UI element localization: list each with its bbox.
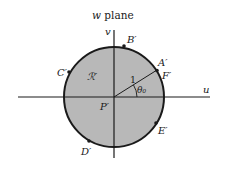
point-b-label: B′ <box>126 34 137 45</box>
v-axis-label: v <box>105 26 111 37</box>
plane-title-suffix: plane <box>101 9 134 21</box>
w-plane-diagram: w plane v u B′ A′ F′ C′ ℛ′ 1 θ₀ P′ E′ D′ <box>0 0 225 173</box>
angle-label: θ₀ <box>137 85 146 95</box>
point-a-label: A′ <box>157 57 168 68</box>
point-a-f <box>155 69 159 73</box>
region-label: ℛ′ <box>87 71 98 82</box>
point-b <box>122 44 126 48</box>
radius-label: 1 <box>130 74 136 85</box>
point-e-label: E′ <box>157 125 168 136</box>
point-c <box>67 70 71 74</box>
point-d-label: D′ <box>80 146 92 157</box>
point-d <box>87 139 91 143</box>
point-c-label: C′ <box>57 67 68 78</box>
point-f-label: F′ <box>161 70 172 81</box>
plane-title: w plane <box>92 9 134 21</box>
center-label: P′ <box>99 101 110 112</box>
u-axis-label: u <box>203 84 209 95</box>
